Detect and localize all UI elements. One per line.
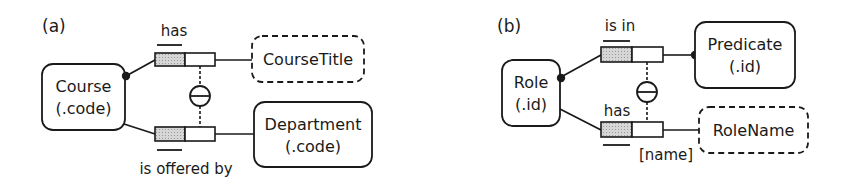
connector-role-has: [560, 109, 601, 130]
value-type-rolename-name: RoleName: [713, 121, 795, 140]
orm-diagram: (a) Course (.code) has CourseTitle: [0, 0, 843, 188]
entity-course-ref: (.code): [55, 99, 111, 118]
panel-a: (a) Course (.code) has CourseTitle: [42, 16, 372, 178]
entity-role-name: Role: [514, 73, 548, 92]
fact-reading-has: has: [604, 102, 631, 120]
fact-reading-is-in: is in: [605, 17, 635, 35]
connector-course-has: [126, 60, 155, 76]
fact-type-is-offered-by[interactable]: [155, 127, 215, 141]
value-type-rolename[interactable]: RoleName: [699, 107, 808, 153]
fact-type-has[interactable]: [155, 53, 215, 66]
fact-reading-is-offered-by: is offered by: [139, 160, 232, 178]
connector-course-offered: [124, 124, 155, 134]
panel-b: (b) Role (.id) is in Predicate (.id): [497, 16, 808, 164]
fact-reading-has: has: [161, 22, 188, 40]
exclusion-constraint-icon[interactable]: [637, 82, 657, 102]
value-type-coursetitle-name: CourseTitle: [263, 50, 353, 69]
panel-a-label: (a): [42, 16, 66, 36]
mandatory-dot-icon: [557, 74, 565, 82]
role-name-label: [name]: [639, 146, 693, 164]
entity-course[interactable]: Course (.code): [42, 64, 125, 130]
entity-department-name: Department: [265, 115, 362, 134]
exclusion-constraint-icon[interactable]: [190, 86, 210, 106]
entity-department-ref: (.code): [285, 137, 341, 156]
fact-type-is-in[interactable]: [601, 47, 663, 62]
entity-department[interactable]: Department (.code): [254, 102, 372, 167]
value-type-coursetitle[interactable]: CourseTitle: [252, 36, 364, 82]
entity-course-name: Course: [56, 77, 112, 96]
entity-predicate-ref: (.id): [729, 57, 761, 76]
entity-predicate-name: Predicate: [708, 35, 783, 54]
entity-role[interactable]: Role (.id): [502, 60, 560, 126]
entity-predicate[interactable]: Predicate (.id): [695, 22, 795, 88]
panel-b-label: (b): [497, 16, 521, 36]
mandatory-dot-icon: [122, 72, 130, 80]
connector-role-is-in: [561, 55, 601, 77]
fact-type-has[interactable]: [601, 122, 663, 137]
entity-role-ref: (.id): [515, 95, 547, 114]
